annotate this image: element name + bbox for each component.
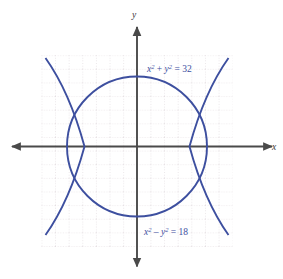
graph-canvas: y x x2 + y2 = 32 x2 – y2 = 18 (0, 0, 283, 279)
hyp-eq-minus: – (151, 227, 161, 237)
conic-graph-figure: y x x2 + y2 = 32 x2 – y2 = 18 (0, 0, 283, 279)
circle-eq-value: 32 (182, 64, 192, 74)
circle-eq-plus: + (154, 64, 164, 74)
hyp-eq-equals: = (168, 227, 178, 237)
circle-eq-equals: = (172, 64, 182, 74)
y-axis-label: y (131, 10, 137, 20)
x-axis-label: x (271, 142, 277, 152)
hyp-eq-value: 18 (179, 227, 189, 237)
